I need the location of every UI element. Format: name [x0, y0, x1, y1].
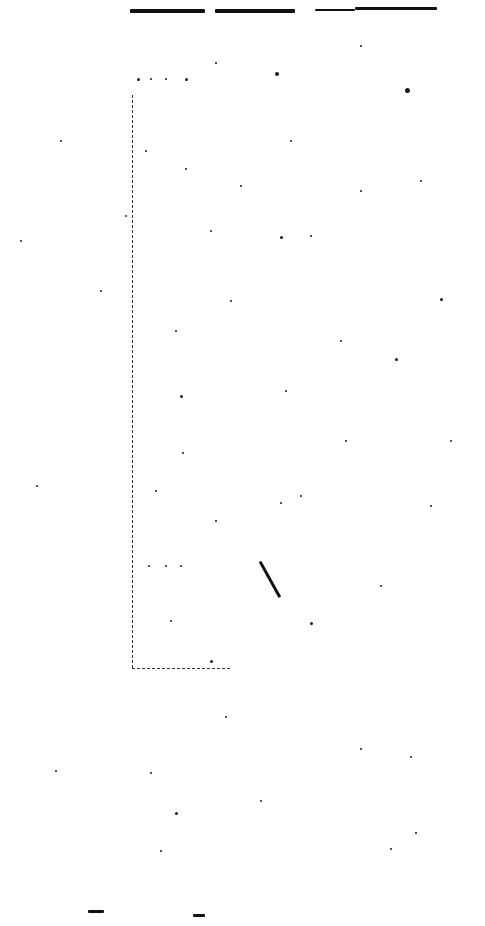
speck: [137, 78, 140, 81]
speck: [360, 748, 362, 750]
scan-stroke: [130, 9, 205, 13]
speck: [165, 565, 167, 567]
speck: [182, 452, 184, 454]
speck: [380, 585, 382, 587]
diagonal-mark: [259, 561, 282, 598]
speck: [410, 756, 412, 758]
speck: [300, 495, 302, 497]
speck: [415, 832, 417, 834]
speck: [185, 168, 187, 170]
speck: [345, 440, 347, 442]
speck: [360, 190, 362, 192]
scan-stroke: [193, 914, 205, 917]
speck: [280, 236, 283, 239]
speck: [170, 620, 172, 622]
speck: [36, 485, 38, 487]
speck: [100, 290, 102, 292]
speck: [160, 850, 162, 852]
speck: [148, 565, 150, 567]
speck: [215, 520, 217, 522]
speck: [310, 622, 313, 625]
speck: [210, 230, 212, 232]
speck: [230, 300, 232, 302]
scan-stroke: [88, 910, 104, 913]
scan-stroke: [215, 9, 295, 13]
speck: [310, 235, 312, 237]
speck: [180, 395, 183, 398]
speck: [275, 72, 279, 76]
speck: [405, 88, 410, 93]
speck: [175, 812, 178, 815]
speck: [290, 140, 292, 142]
speck: [165, 78, 167, 80]
speck: [55, 770, 57, 772]
speck: [175, 330, 177, 332]
speck: [150, 772, 152, 774]
speck: [180, 565, 182, 567]
speck: [185, 78, 188, 81]
speck: [430, 505, 432, 507]
speck: [260, 800, 262, 802]
frame-left-edge: [132, 95, 133, 668]
scan-stroke: [315, 9, 355, 11]
frame-bottom-edge: [132, 668, 230, 669]
speck: [240, 185, 242, 187]
speck: [155, 490, 157, 492]
speck: [420, 180, 422, 182]
speck: [395, 358, 398, 361]
scanned-page: [0, 0, 485, 926]
speck: [450, 440, 452, 442]
speck: [215, 62, 217, 64]
scan-stroke: [355, 7, 437, 10]
speck: [360, 45, 362, 47]
speck: [340, 340, 342, 342]
speck: [225, 716, 227, 718]
speck: [390, 848, 392, 850]
speck: [125, 215, 127, 217]
speck: [210, 660, 213, 663]
speck: [60, 140, 62, 142]
speck: [280, 502, 282, 504]
speck: [20, 240, 22, 242]
speck: [145, 150, 147, 152]
speck: [440, 298, 443, 301]
speck: [150, 78, 152, 80]
speck: [285, 390, 287, 392]
